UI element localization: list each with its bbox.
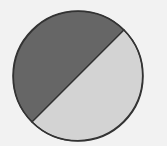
pie-chart-svg: [0, 0, 167, 146]
pie-slices: [13, 11, 142, 140]
pie-chart: [0, 0, 167, 146]
